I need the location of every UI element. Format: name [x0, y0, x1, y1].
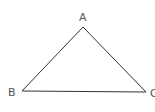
triangle-diagram: A B C — [0, 0, 155, 112]
vertex-label-b: B — [8, 86, 16, 99]
vertex-label-c: C — [150, 87, 155, 100]
triangle-abc — [22, 27, 146, 92]
vertex-label-a: A — [79, 11, 87, 24]
